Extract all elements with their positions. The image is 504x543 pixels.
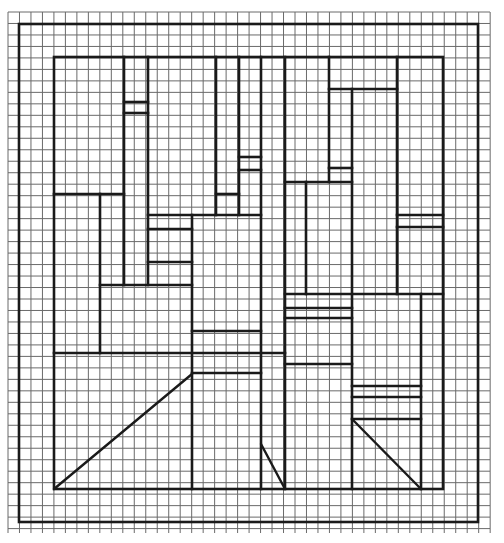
background (0, 0, 504, 543)
line-drawing (0, 0, 504, 543)
